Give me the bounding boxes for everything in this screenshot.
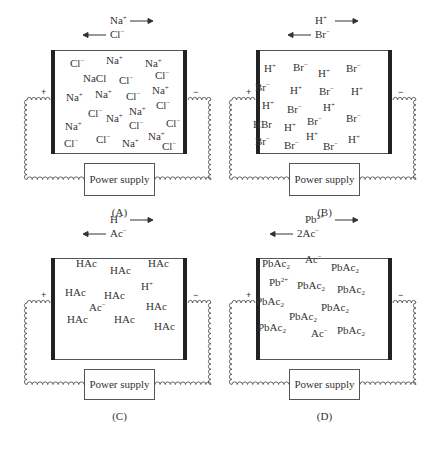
species-label: Ac−	[89, 302, 106, 313]
species-label: Cl−	[162, 141, 176, 152]
species-charge: −	[266, 81, 270, 89]
anion-arrow-left-icon	[83, 232, 106, 237]
power-supply-box: Power supply	[84, 369, 155, 400]
species-label: PbAc2	[256, 296, 284, 307]
species-formula: PbAc	[258, 321, 282, 333]
species-formula: Br	[346, 62, 357, 74]
species-charge: +	[298, 84, 302, 92]
anion-symbol: Ac	[110, 227, 123, 239]
species-formula: NaCl	[83, 72, 106, 84]
species-formula: Cl	[126, 90, 136, 102]
species-formula: Na	[106, 54, 119, 66]
species-label: Cl−	[155, 70, 169, 81]
species-label: Cl−	[96, 134, 110, 145]
species-charge: +	[272, 62, 276, 70]
species-formula: HAc	[154, 320, 175, 332]
species-charge: +	[326, 67, 330, 75]
species-label: Na+	[65, 121, 82, 132]
cation-label: Pb2+	[305, 214, 324, 225]
species-charge: +	[292, 121, 296, 129]
species-label: Br−	[255, 136, 270, 147]
species-label: PbAc2	[289, 311, 317, 322]
species-label: PbAc2	[337, 325, 365, 336]
species-formula: Br	[284, 139, 295, 151]
species-label: H+	[262, 100, 274, 111]
species-label: HAc	[154, 321, 175, 332]
species-label: PbAc2	[337, 284, 365, 295]
panel-b: H+Br−+−H+Br−H+Br−Br−H+Br−H+H+Br−H+HBrH+B…	[205, 0, 425, 230]
species-label: Cl−	[88, 108, 102, 119]
anion-arrow-left-icon	[288, 33, 311, 38]
species-label: Br−	[293, 62, 308, 73]
panel-caption: (D)	[289, 410, 360, 422]
panel-c: H+Ac−+−HAcHAcHAcH+HAcHAcAc−HAcHAcHAcHAcP…	[0, 207, 220, 437]
species-formula: Na	[106, 112, 119, 124]
species-formula: H	[262, 99, 270, 111]
species-charge: +	[119, 54, 123, 62]
species-formula: PbAc	[331, 261, 355, 273]
species-formula: PbAc	[321, 301, 345, 313]
species-label: Na+	[129, 106, 146, 117]
species-label: HAc	[148, 258, 169, 269]
species-formula: Br	[323, 140, 334, 152]
species-formula: H	[290, 84, 298, 96]
species-label: H+	[351, 86, 363, 97]
species-label: PbAc2	[262, 258, 290, 269]
species-formula: HAc	[104, 289, 125, 301]
species-formula: HBr	[253, 118, 272, 130]
anion-symbol: Br	[315, 28, 326, 40]
species-subscript: 2	[345, 307, 349, 315]
species-formula: Br	[255, 135, 266, 147]
cathode-electrode	[388, 258, 392, 360]
cation-charge: +	[323, 14, 327, 22]
cation-charge: +	[118, 213, 122, 221]
species-formula: HAc	[148, 257, 169, 269]
species-charge: +	[142, 105, 146, 113]
anion-charge: −	[120, 28, 124, 36]
species-charge: −	[172, 140, 176, 148]
species-label: NaCl	[83, 73, 106, 84]
species-label: H+	[318, 68, 330, 79]
cation-charge: 2+	[317, 213, 324, 221]
cathode-electrode	[183, 50, 187, 154]
species-label: H+	[264, 63, 276, 74]
species-label: Br−	[346, 113, 361, 124]
species-charge: 2+	[281, 276, 288, 284]
species-formula: H	[351, 85, 359, 97]
species-subscript: 2	[282, 327, 286, 335]
species-label: Br−	[346, 63, 361, 74]
anion-arrow-left-icon	[83, 33, 106, 38]
species-formula: Cl	[64, 137, 74, 149]
species-charge: +	[270, 99, 274, 107]
species-label: Cl−	[119, 75, 133, 86]
positive-terminal-sign: +	[41, 87, 46, 97]
cation-symbol: H	[110, 213, 118, 225]
positive-terminal-sign: +	[41, 290, 46, 300]
species-label: Cl−	[129, 120, 143, 131]
species-label: PbAc2	[321, 302, 349, 313]
species-charge: −	[324, 327, 328, 335]
species-label: H+	[306, 131, 318, 142]
species-label: Cl−	[64, 138, 78, 149]
species-charge: −	[318, 115, 322, 123]
species-formula: Br	[307, 115, 318, 127]
species-charge: −	[129, 74, 133, 82]
species-charge: −	[165, 69, 169, 77]
species-charge: +	[119, 112, 123, 120]
species-formula: HAc	[76, 257, 97, 269]
panel-caption: (C)	[84, 410, 155, 422]
panel-d: Pb2+2Ac−+−PbAc2Ac−PbAc2Pb2+PbAc2PbAc2PbA…	[205, 207, 425, 437]
negative-terminal-sign: −	[193, 290, 198, 300]
anion-arrow-left-icon	[270, 232, 293, 237]
species-label: H+	[323, 102, 335, 113]
anode-electrode	[256, 258, 260, 360]
species-formula: Br	[293, 61, 304, 73]
species-formula: Cl	[166, 117, 176, 129]
species-charge: −	[357, 62, 361, 70]
species-charge: +	[161, 130, 165, 138]
anion-label: 2Ac−	[297, 228, 319, 239]
species-formula: Na	[152, 84, 165, 96]
species-formula: H	[318, 67, 326, 79]
species-formula: Br	[255, 81, 266, 93]
species-subscript: 2	[313, 316, 317, 324]
